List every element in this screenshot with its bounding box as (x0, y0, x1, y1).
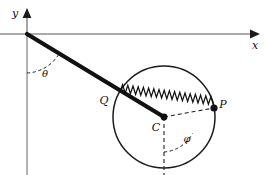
spring-zigzag (120, 85, 214, 108)
point-p-label: P (218, 98, 227, 111)
point-q-label: Q (99, 94, 108, 107)
phi-label: φ (183, 133, 190, 144)
y-axis-arrowhead (23, 8, 32, 18)
x-axis-label: x (252, 39, 259, 52)
point-p-marker (210, 104, 217, 111)
point-c-marker (161, 114, 168, 121)
y-axis-label: y (11, 7, 19, 20)
point-c-label: C (152, 121, 161, 134)
theta-label: θ (42, 68, 48, 79)
x-axis-arrowhead (250, 30, 260, 39)
cp-dashed-line (164, 108, 214, 117)
physics-diagram-figure: y x θ φ Q P C (0, 0, 266, 175)
diagram-canvas: y x θ φ Q P C (0, 0, 266, 175)
spring-group (120, 85, 214, 108)
